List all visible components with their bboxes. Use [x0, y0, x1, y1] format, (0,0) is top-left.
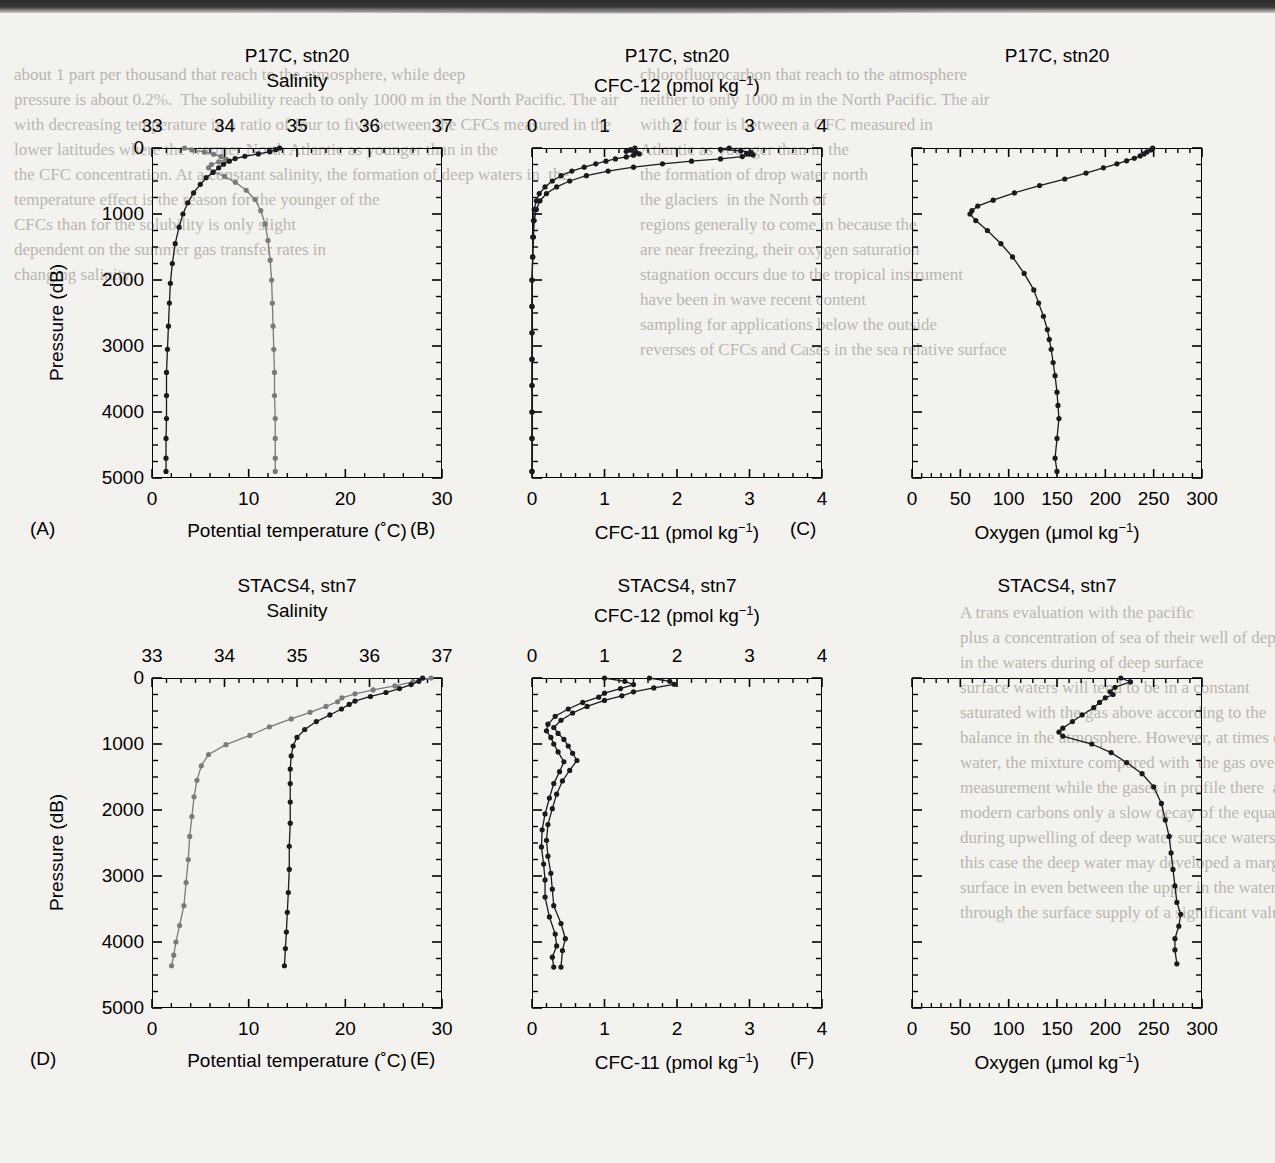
series-marker: [967, 211, 972, 216]
series-marker: [189, 814, 194, 819]
series-marker: [285, 910, 290, 915]
top-axis-tick: 0: [527, 645, 538, 667]
series-marker: [531, 235, 536, 240]
bottom-axis-tick-labels: 050100150200250300: [912, 1018, 1202, 1040]
series-marker: [352, 699, 357, 704]
series-marker: [1062, 176, 1067, 181]
series-marker: [529, 436, 534, 441]
series-marker: [529, 409, 534, 414]
series-marker: [545, 722, 550, 727]
series-marker: [1031, 287, 1036, 292]
series-marker: [1112, 685, 1117, 690]
series-marker: [1054, 390, 1059, 395]
series-marker: [368, 694, 373, 699]
series-marker: [273, 436, 278, 441]
series-marker: [529, 330, 534, 335]
series-marker: [177, 923, 182, 928]
pressure-tick-label: 4000: [72, 931, 144, 953]
bottom-axis-tick: 100: [993, 1018, 1025, 1040]
series-marker: [554, 943, 559, 948]
y-axis-title: Pressure (dB): [46, 794, 68, 911]
series-marker: [618, 686, 623, 691]
series-marker: [1172, 947, 1177, 952]
bottom-axis-tick: 0: [907, 488, 918, 510]
top-axis-tick: 35: [286, 115, 307, 137]
series-marker: [1056, 730, 1061, 735]
series-marker: [667, 679, 672, 684]
top-axis-tick: 36: [359, 645, 380, 667]
series-marker: [551, 781, 556, 786]
series-marker: [548, 735, 553, 740]
series-marker: [529, 304, 534, 309]
series-marker: [176, 225, 181, 230]
series-marker: [169, 963, 174, 968]
series-marker: [1172, 936, 1177, 941]
series-marker: [1055, 403, 1060, 408]
pressure-tick-label: 2000: [72, 799, 144, 821]
panel-title-station: STACS4, stn7: [912, 573, 1202, 598]
series-marker: [252, 197, 257, 202]
series-marker: [985, 228, 990, 233]
series-marker: [1151, 784, 1156, 789]
series-marker: [566, 706, 571, 711]
series-marker: [596, 695, 601, 700]
series-marker: [180, 211, 185, 216]
series-marker: [545, 822, 550, 827]
series-marker: [272, 370, 277, 375]
series-marker: [164, 370, 169, 375]
bottom-axis-tick: 100: [993, 488, 1025, 510]
series-marker: [551, 903, 556, 908]
series-marker: [185, 200, 190, 205]
series-marker: [545, 854, 550, 859]
series-marker: [1124, 760, 1129, 765]
series-marker: [1163, 817, 1168, 822]
series-marker: [529, 469, 534, 474]
series-marker: [603, 159, 608, 164]
series-marker: [216, 165, 221, 170]
series-marker: [347, 702, 352, 707]
figure-panels-container: P17C, stn20Salinity333435363701000200030…: [0, 0, 1275, 1163]
bottom-axis-tick: 20: [335, 1018, 356, 1040]
series-marker: [194, 778, 199, 783]
series-marker: [566, 743, 571, 748]
top-axis-tick: 2: [672, 645, 683, 667]
series-marker: [585, 704, 590, 709]
series-marker: [539, 844, 544, 849]
series-marker: [560, 778, 565, 783]
series-marker: [622, 679, 627, 684]
series-marker: [1114, 161, 1119, 166]
series-marker: [1172, 883, 1177, 888]
series-marker: [267, 149, 272, 154]
series-marker: [570, 751, 575, 756]
series-marker: [529, 277, 534, 282]
panel-letter: (B): [410, 518, 435, 540]
x-axis-title-superscript: −1: [738, 1050, 753, 1065]
bottom-axis-tick: 0: [147, 488, 158, 510]
series-marker: [542, 184, 547, 189]
top-axis-tick: 1: [599, 115, 610, 137]
series-marker: [202, 149, 207, 154]
series-marker: [1118, 675, 1123, 680]
series-marker: [537, 191, 542, 196]
series-marker: [206, 752, 211, 757]
bottom-axis-tick: 250: [1138, 1018, 1170, 1040]
series-marker: [1101, 165, 1106, 170]
series-marker: [554, 792, 559, 797]
series-marker: [602, 691, 607, 696]
x-axis-title: Oxygen (μmol kg−1): [912, 520, 1202, 544]
series-marker: [1091, 705, 1096, 710]
panel-title-station: P17C, stn20: [912, 43, 1202, 68]
series-marker: [191, 794, 196, 799]
series-marker: [256, 151, 261, 156]
series-marker: [1167, 834, 1172, 839]
series-marker: [567, 768, 572, 773]
series-marker: [1168, 850, 1173, 855]
y-axis-title: Pressure (dB): [46, 264, 68, 381]
series-marker: [558, 921, 563, 926]
series-marker: [1170, 867, 1175, 872]
pressure-tick-label: 3000: [72, 335, 144, 357]
series-marker: [547, 796, 552, 801]
series-marker: [613, 156, 618, 161]
series-marker: [537, 198, 542, 203]
series-marker: [294, 735, 299, 740]
